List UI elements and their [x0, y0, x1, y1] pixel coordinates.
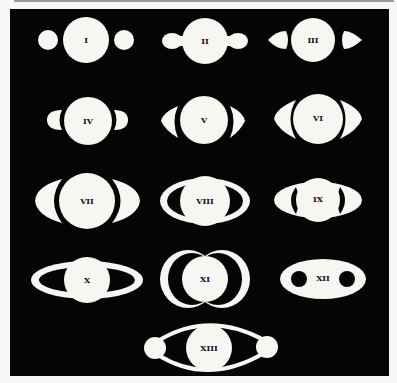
figure-label: XIII [200, 343, 218, 353]
figure-11: XI [160, 250, 250, 308]
figure-label: II [201, 36, 209, 46]
figure-2: II [162, 18, 248, 64]
figure-7: VII [35, 173, 140, 229]
figure-12: XII [280, 259, 366, 299]
figure-label: IX [313, 194, 324, 204]
figure-label: XI [200, 274, 210, 284]
figure-label: III [307, 35, 318, 45]
figure-label: VII [79, 196, 94, 206]
figure-5: V [161, 96, 245, 144]
figure-6: VI [274, 94, 362, 144]
figure-13: XIII [144, 325, 278, 371]
figure-label: X [84, 275, 91, 285]
figure-label: IV [83, 116, 94, 126]
figure-label: V [200, 115, 208, 125]
figure-9: IX [274, 178, 362, 222]
figure-label: VI [312, 113, 323, 123]
figure-label: VIII [195, 196, 214, 206]
figure-10: X [31, 257, 143, 303]
figure-3: III [268, 18, 362, 62]
figure-label: XII [316, 273, 330, 283]
saturn-figures: I II III IV V VI VII [0, 0, 397, 383]
figure-8: VIII [160, 176, 250, 226]
figure-4: IV [47, 97, 128, 145]
figure-label: I [84, 35, 88, 45]
figure-1: I [38, 17, 134, 63]
